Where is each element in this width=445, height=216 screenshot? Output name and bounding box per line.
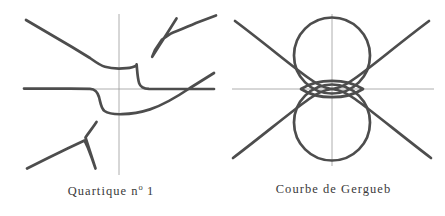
curve-quartique-1 (24, 16, 216, 169)
caption-courbe-de-gergueb: Courbe de Gergueb (222, 182, 445, 197)
courbe-de-gergueb-svg (222, 0, 445, 182)
branch-upper-right-chevron (152, 16, 216, 57)
caption-courbe-de-gergueb-main: Courbe de Gergueb (276, 182, 392, 196)
quartique-1-svg (0, 0, 222, 182)
figure-page: Quartique no 1 (0, 0, 445, 216)
branch-lower-left-chevron (27, 122, 97, 169)
branch-upper-oblique-to-right-horizontal (26, 20, 214, 89)
caption-quartique-1: Quartique no 1 (0, 182, 222, 199)
plot-area-quartique-1 (0, 0, 222, 182)
axes-quartique-1 (24, 14, 214, 175)
caption-quartique-1-main: Quartique n (68, 184, 139, 198)
caption-quartique-1-number: 1 (143, 184, 154, 198)
plot-area-courbe-de-gergueb (222, 0, 445, 182)
figure-quartique-1: Quartique no 1 (0, 0, 222, 216)
figure-courbe-de-gergueb: Courbe de Gergueb (222, 0, 445, 216)
